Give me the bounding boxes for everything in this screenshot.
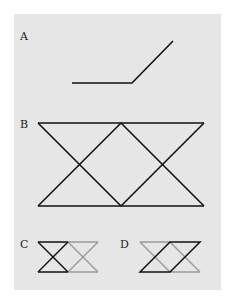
gray-outline bbox=[140, 242, 200, 272]
panel-a: A bbox=[19, 30, 173, 83]
figure-canvas: A B C D bbox=[0, 0, 229, 300]
panel-c-label: C bbox=[20, 238, 28, 251]
gray-bowtie bbox=[68, 242, 98, 272]
bent-line bbox=[72, 41, 173, 83]
panel-b-label: B bbox=[20, 118, 28, 131]
panel-b: B bbox=[20, 118, 204, 206]
panel-a-label: A bbox=[19, 30, 29, 43]
panel-d-label: D bbox=[120, 238, 129, 251]
panel-d: D bbox=[120, 238, 200, 272]
black-bowtie bbox=[38, 242, 68, 272]
panel-c: C bbox=[20, 238, 98, 272]
black-parallelogram bbox=[140, 242, 200, 272]
